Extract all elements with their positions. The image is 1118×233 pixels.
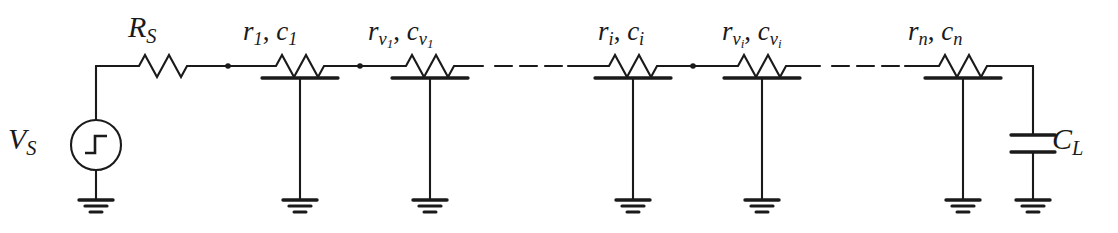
label-r-i: r bbox=[598, 16, 609, 46]
label-rc-section-n: rn, cn bbox=[908, 18, 962, 51]
label-source-resistor: RS bbox=[128, 12, 157, 46]
label-r-sub-v1: v1 bbox=[379, 29, 394, 49]
node-dot-1 bbox=[225, 63, 231, 69]
label-comma-i: , bbox=[614, 16, 628, 46]
label-rs-main: R bbox=[128, 10, 146, 43]
label-c-sub-vi: vi bbox=[770, 29, 782, 49]
label-r-v1: r bbox=[368, 16, 379, 46]
label-r-n: r bbox=[908, 16, 919, 46]
label-c-sub-n: n bbox=[953, 29, 962, 49]
label-c-sub-i: i bbox=[639, 29, 644, 49]
ground-rc-n bbox=[946, 200, 980, 212]
label-comma-1: , bbox=[263, 16, 277, 46]
rc-section-rc-i bbox=[595, 55, 671, 200]
node-dot-3 bbox=[690, 63, 696, 69]
label-cl-sub: L bbox=[1072, 137, 1083, 159]
load-capacitor-branch bbox=[1011, 66, 1055, 200]
label-r-vi: r bbox=[722, 16, 733, 46]
ground-rc-vi bbox=[745, 200, 779, 212]
resistor-rs bbox=[133, 55, 193, 77]
label-c-1: c bbox=[276, 16, 288, 46]
label-rc-section-vi: rvi, cvi bbox=[722, 18, 782, 51]
label-vs-sub: S bbox=[26, 137, 36, 159]
label-vs-main: V bbox=[8, 122, 26, 155]
ground-source bbox=[79, 200, 113, 212]
label-c-v1: c bbox=[407, 16, 419, 46]
label-rc-section-1: r1, c1 bbox=[243, 18, 297, 51]
label-source-voltage: VS bbox=[8, 124, 37, 158]
node-dot-2 bbox=[357, 63, 363, 69]
ground-symbols bbox=[79, 200, 1050, 212]
source-branch bbox=[71, 66, 121, 200]
rc-section-rc-n bbox=[925, 55, 1001, 200]
label-r-1: r bbox=[243, 16, 254, 46]
label-load-capacitor: CL bbox=[1052, 124, 1083, 158]
label-c-sub-v1: v1 bbox=[419, 29, 434, 49]
label-comma-n: , bbox=[928, 16, 942, 46]
label-c-i: c bbox=[627, 16, 639, 46]
rc-section-rc-v1 bbox=[392, 55, 468, 200]
label-rs-sub: S bbox=[146, 25, 156, 47]
ground-rc-1 bbox=[283, 200, 317, 212]
label-r-sub-vi: vi bbox=[733, 29, 745, 49]
label-c-n: c bbox=[941, 16, 953, 46]
ground-load bbox=[1016, 200, 1050, 212]
label-r-sub-n: n bbox=[919, 29, 928, 49]
rc-section-rc-vi bbox=[724, 55, 800, 200]
label-cl-main: C bbox=[1052, 122, 1072, 155]
ground-rc-v1 bbox=[413, 200, 447, 212]
label-c-vi: c bbox=[758, 16, 770, 46]
circuit-diagram: RS VS r1, c1 rv1, cv1 ri, ci rvi, cvi rn… bbox=[0, 0, 1118, 233]
label-rc-section-i: ri, ci bbox=[598, 18, 644, 51]
label-r-sub-1: 1 bbox=[254, 29, 263, 49]
label-rc-section-v1: rv1, cv1 bbox=[368, 18, 434, 51]
label-c-sub-1: 1 bbox=[288, 29, 297, 49]
label-comma-vi: , bbox=[744, 16, 758, 46]
label-comma-v1: , bbox=[393, 16, 407, 46]
ground-rc-i bbox=[616, 200, 650, 212]
rc-section-rc-1 bbox=[262, 55, 338, 200]
